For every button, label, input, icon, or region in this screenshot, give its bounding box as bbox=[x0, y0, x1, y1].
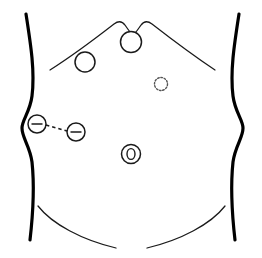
inguinal-crease-right bbox=[147, 206, 225, 248]
port-right-paraumbilical-planned[interactable] bbox=[155, 78, 168, 91]
port-xiphoid[interactable] bbox=[121, 32, 142, 53]
abdominal-port-diagram bbox=[0, 0, 262, 258]
flank-port-connector bbox=[46, 125, 67, 131]
costal-margin-right bbox=[135, 22, 215, 70]
port-umbilical[interactable] bbox=[122, 145, 141, 164]
port-flank-medial[interactable] bbox=[67, 123, 85, 141]
port-umbilical-outer-ring bbox=[122, 145, 141, 164]
port-left-upper-quadrant[interactable] bbox=[75, 52, 95, 72]
inguinal-crease-left bbox=[38, 206, 116, 248]
port-flank-lateral[interactable] bbox=[28, 115, 46, 133]
diagram-canvas bbox=[0, 0, 262, 258]
right-torso-contour bbox=[232, 14, 243, 240]
marker-group bbox=[28, 32, 168, 164]
connector-group bbox=[46, 125, 67, 131]
landmark-group bbox=[38, 22, 225, 248]
